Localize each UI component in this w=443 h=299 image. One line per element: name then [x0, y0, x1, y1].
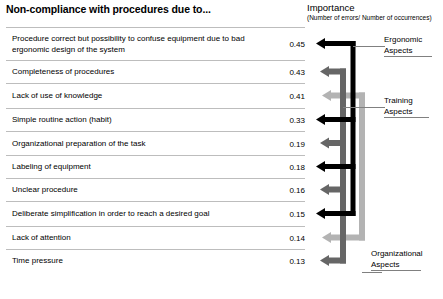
- importance-heading: Importance: [307, 2, 355, 13]
- group-label-training: TrainingAspects: [384, 96, 413, 117]
- table-row: Completeness of procedures0.43: [6, 60, 305, 83]
- group-label-ergonomic: ErgonomicAspects: [384, 35, 422, 56]
- importance-value: 0.14: [271, 234, 305, 243]
- group-label-line: Aspects: [384, 107, 413, 118]
- importance-value: 0.18: [271, 163, 305, 172]
- cause-label: Organizational preparation of the task: [12, 138, 252, 149]
- group-label-line: Training: [384, 96, 413, 107]
- table-row: Procedure correct but possibility to con…: [6, 27, 305, 60]
- cause-label: Time pressure: [12, 256, 252, 267]
- importance-value: 0.41: [271, 92, 305, 101]
- importance-value: 0.19: [271, 139, 305, 148]
- cause-label: Unclear procedure: [12, 185, 252, 196]
- figure-title: Non-compliance with procedures due to...: [6, 3, 211, 15]
- group-label-line: Aspects: [371, 260, 423, 271]
- importance-value: 0.13: [271, 257, 305, 266]
- table-row: Time pressure0.13: [6, 249, 305, 272]
- figure-root: Non-compliance with procedures due to...…: [0, 0, 443, 299]
- table-row: Unclear procedure0.16: [6, 178, 305, 201]
- causes-table: Procedure correct but possibility to con…: [6, 27, 305, 272]
- importance-value: 0.16: [271, 186, 305, 195]
- importance-value: 0.45: [271, 40, 305, 49]
- cause-label: Lack of attention: [12, 233, 252, 244]
- cause-label: Labeling of equipment: [12, 162, 252, 173]
- cause-label: Completeness of procedures: [12, 67, 252, 78]
- importance-value: 0.15: [271, 210, 305, 219]
- table-row: Deliberate simplification in order to re…: [6, 201, 305, 226]
- table-row: Organizational preparation of the task0.…: [6, 131, 305, 155]
- importance-value: 0.43: [271, 68, 305, 77]
- cause-label: Procedure correct but possibility to con…: [12, 34, 252, 55]
- group-label-line: Aspects: [384, 46, 422, 57]
- cause-label: Lack of use of knowledge: [12, 91, 252, 102]
- cause-label: Simple routine action (habit): [12, 115, 252, 126]
- table-row: Simple routine action (habit)0.33: [6, 108, 305, 131]
- cause-label: Deliberate simplification in order to re…: [12, 209, 252, 220]
- table-row: Lack of use of knowledge0.41: [6, 83, 305, 108]
- table-row: Labeling of equipment0.18: [6, 155, 305, 178]
- importance-value: 0.33: [271, 116, 305, 125]
- group-label-organizational: OrganizationalAspects: [371, 249, 423, 270]
- table-row: Lack of attention0.14: [6, 226, 305, 249]
- group-label-line: Organizational: [371, 249, 423, 260]
- importance-subheading: (Number of errors/ Number of occurrences…: [307, 14, 432, 21]
- group-label-line: Ergonomic: [384, 35, 422, 46]
